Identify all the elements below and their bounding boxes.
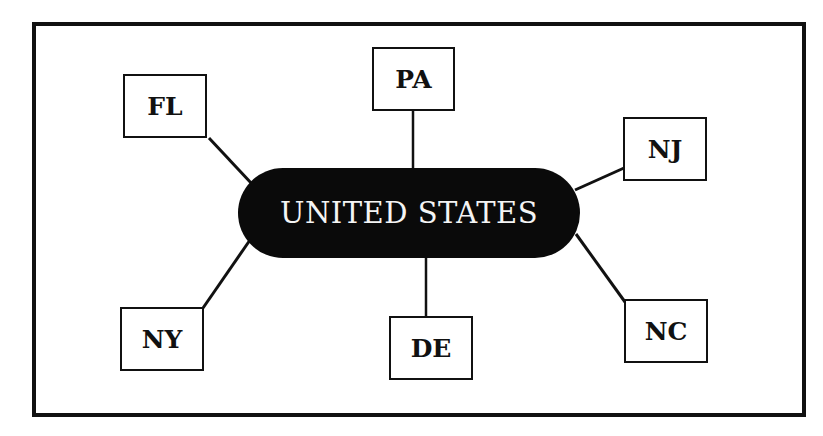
node-label: FL xyxy=(147,92,182,121)
node-label: PA xyxy=(395,65,431,94)
node-de: DE xyxy=(389,316,473,380)
node-pa: PA xyxy=(372,47,455,111)
node-ny: NY xyxy=(120,307,204,371)
edge-nj xyxy=(575,168,624,190)
edge-nc xyxy=(576,234,625,302)
hub-node-united-states: UNITED STATES xyxy=(238,168,580,258)
node-nj: NJ xyxy=(623,117,707,181)
node-label: NC xyxy=(645,317,688,346)
hub-label: UNITED STATES xyxy=(280,196,538,230)
node-nc: NC xyxy=(624,299,708,363)
node-label: NY xyxy=(142,325,183,354)
node-fl: FL xyxy=(123,74,207,138)
node-label: DE xyxy=(411,334,452,363)
edge-fl xyxy=(209,138,252,184)
node-label: NJ xyxy=(648,135,683,164)
edge-ny xyxy=(203,240,250,308)
